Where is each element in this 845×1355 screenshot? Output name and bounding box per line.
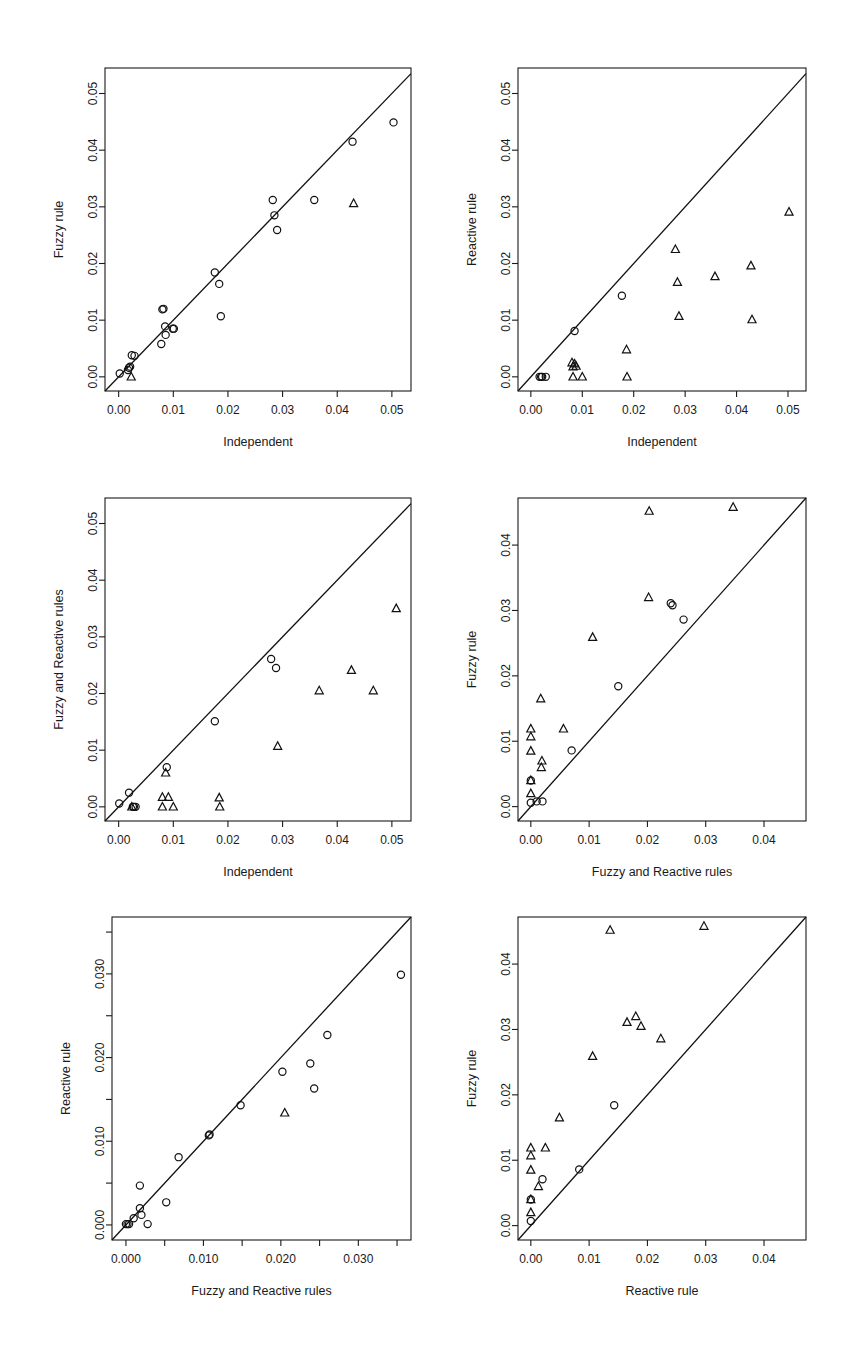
- data-point-triangle: [369, 686, 377, 694]
- x-tick-label: 0.00: [519, 1252, 543, 1266]
- data-point-triangle: [164, 793, 172, 801]
- data-point-circle: [269, 196, 276, 203]
- data-point-circle: [138, 1211, 145, 1218]
- data-point-triangle: [657, 1034, 665, 1042]
- data-point-circle: [311, 196, 318, 203]
- x-tick-label: 0.04: [752, 833, 776, 847]
- data-point-circle: [667, 600, 674, 607]
- x-tick-label: 0.03: [271, 403, 295, 417]
- x-axis-title: Independent: [223, 435, 293, 449]
- data-point-circle: [307, 1060, 314, 1067]
- y-tick-label: 0.04: [86, 138, 100, 162]
- data-point-circle: [216, 280, 223, 287]
- x-tick-label: 0.01: [162, 833, 186, 847]
- x-axis-title: Fuzzy and Reactive rules: [191, 1284, 331, 1298]
- data-point-circle: [390, 119, 397, 126]
- panel-6: 0.000.010.020.030.040.000.010.020.030.04…: [438, 907, 820, 1306]
- data-point-circle: [217, 313, 224, 320]
- data-points: [536, 208, 793, 381]
- x-tick-label: 0.02: [216, 833, 240, 847]
- data-point-circle: [539, 1176, 546, 1183]
- data-point-circle: [211, 718, 218, 725]
- y-tick-label: 0.00: [86, 365, 100, 389]
- y-tick-label: 0.04: [499, 533, 513, 557]
- data-point-triangle: [350, 199, 358, 207]
- y-tick-label: 0.000: [93, 1210, 107, 1240]
- data-point-triangle: [347, 666, 355, 674]
- identity-reference-line: [105, 504, 411, 821]
- data-point-circle: [527, 1217, 534, 1224]
- x-tick-label: 0.030: [343, 1252, 373, 1266]
- data-point-triangle: [711, 272, 719, 280]
- x-tick-label: 0.01: [577, 833, 601, 847]
- y-tick-label: 0.010: [93, 1126, 107, 1156]
- x-tick-label: 0.03: [694, 1252, 718, 1266]
- x-tick-label: 0.00: [107, 833, 131, 847]
- y-tick-label: 0.01: [499, 308, 513, 332]
- data-point-circle: [324, 1031, 331, 1038]
- data-point-circle: [680, 616, 687, 623]
- x-axis-title: Fuzzy and Reactive rules: [592, 865, 732, 879]
- x-tick-label: 0.02: [636, 833, 660, 847]
- data-point-circle: [397, 971, 404, 978]
- data-point-circle: [669, 602, 676, 609]
- data-point-circle: [279, 1068, 286, 1075]
- data-point-triangle: [623, 1018, 631, 1026]
- y-tick-label: 0.020: [93, 1042, 107, 1072]
- data-points: [116, 604, 401, 810]
- x-tick-label: 0.04: [725, 403, 749, 417]
- y-tick-label: 0.00: [499, 795, 513, 819]
- y-tick-label: 0.03: [499, 1017, 513, 1041]
- x-tick-label: 0.02: [636, 1252, 660, 1266]
- data-point-triangle: [623, 372, 631, 380]
- y-tick-label: 0.02: [86, 251, 100, 275]
- data-point-circle: [175, 1154, 182, 1161]
- data-point-circle: [211, 269, 218, 276]
- y-tick-label: 0.01: [499, 1148, 513, 1172]
- identity-reference-line: [518, 74, 806, 391]
- y-tick-label: 0.02: [499, 664, 513, 688]
- x-tick-label: 0.000: [111, 1252, 141, 1266]
- data-point-triangle: [785, 208, 793, 216]
- data-point-triangle: [578, 372, 586, 380]
- data-point-circle: [163, 1199, 170, 1206]
- x-tick-label: 0.01: [571, 403, 595, 417]
- x-tick-label: 0.02: [216, 403, 240, 417]
- data-point-circle: [136, 1182, 143, 1189]
- x-tick-label: 0.01: [577, 1252, 601, 1266]
- data-point-triangle: [673, 278, 681, 286]
- x-tick-label: 0.05: [380, 403, 404, 417]
- y-tick-label: 0.04: [499, 952, 513, 976]
- data-point-triangle: [537, 694, 545, 702]
- data-point-triangle: [315, 686, 323, 694]
- data-point-triangle: [527, 1151, 535, 1159]
- data-point-triangle: [162, 768, 170, 776]
- data-point-triangle: [527, 724, 535, 732]
- panel-4: 0.000.010.020.030.040.000.010.020.030.04…: [438, 488, 820, 887]
- panel-1: 0.000.010.020.030.040.050.000.010.020.03…: [25, 58, 425, 457]
- y-tick-label: 0.00: [86, 795, 100, 819]
- data-points: [122, 971, 404, 1228]
- data-point-triangle: [527, 789, 535, 797]
- data-point-triangle: [527, 1208, 535, 1216]
- figure-sheet: 0.000.010.020.030.040.050.000.010.020.03…: [0, 0, 845, 1355]
- y-tick-label: 0.04: [86, 568, 100, 592]
- data-point-circle: [162, 331, 169, 338]
- y-tick-label: 0.05: [86, 81, 100, 105]
- data-point-circle: [268, 655, 275, 662]
- data-point-triangle: [527, 1195, 535, 1203]
- data-point-triangle: [589, 1052, 597, 1060]
- x-tick-label: 0.04: [326, 403, 350, 417]
- data-point-circle: [349, 138, 356, 145]
- data-point-circle: [272, 664, 279, 671]
- data-point-circle: [568, 747, 575, 754]
- data-point-triangle: [392, 604, 400, 612]
- data-point-triangle: [729, 503, 737, 511]
- x-tick-label: 0.04: [752, 1252, 776, 1266]
- data-point-triangle: [215, 793, 223, 801]
- data-point-triangle: [569, 372, 577, 380]
- data-point-triangle: [589, 633, 597, 641]
- y-tick-label: 0.03: [86, 195, 100, 219]
- y-tick-label: 0.02: [86, 681, 100, 705]
- data-point-triangle: [169, 802, 177, 810]
